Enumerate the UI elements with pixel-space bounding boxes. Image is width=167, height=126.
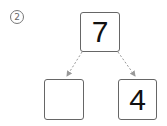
bottom-right-number-box: 4 xyxy=(118,79,157,120)
arrow-right xyxy=(118,52,135,76)
arrow-left xyxy=(67,52,82,76)
bottom-left-answer-box[interactable] xyxy=(44,79,84,120)
top-number-box: 7 xyxy=(80,12,120,52)
